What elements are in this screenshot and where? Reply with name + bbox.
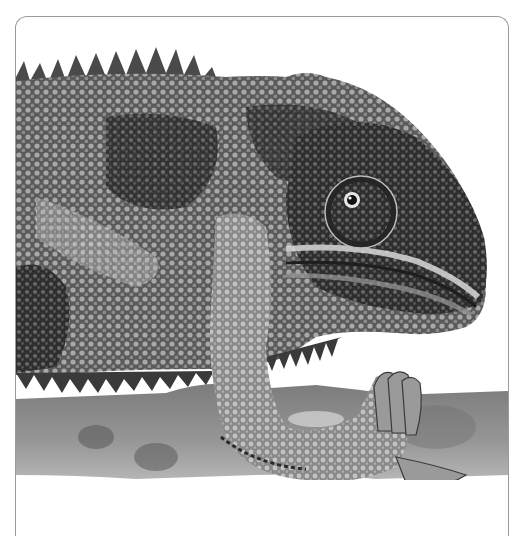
image-card: [15, 16, 509, 536]
chameleon-eye: [325, 176, 397, 248]
chameleon-illustration: [16, 17, 509, 521]
caption-area: [16, 480, 509, 521]
